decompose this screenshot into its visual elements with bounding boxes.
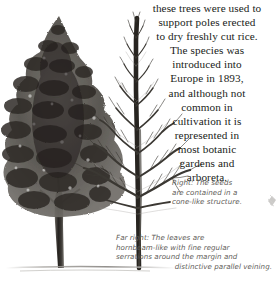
illustrated-page: these trees were used to support poles e… <box>0 0 279 289</box>
body-text-block: these trees were used to support poles e… <box>146 1 268 184</box>
foliated-tree-illustration <box>1 16 126 268</box>
body-line: cultivation it is <box>146 114 268 128</box>
body-line: common in <box>146 100 268 114</box>
body-line: The species was <box>146 43 268 57</box>
body-line: introduced into <box>146 57 268 71</box>
body-line: to dry freshly cut rice. <box>146 29 268 43</box>
body-line: these trees were used to <box>146 1 268 15</box>
caption-line: are contained in a <box>172 188 268 198</box>
body-line: most botanic <box>146 142 268 156</box>
body-line: gardens and <box>146 156 268 170</box>
body-line: Europe in 1893, <box>146 71 268 85</box>
body-line: represented in <box>146 128 268 142</box>
caption-line: Right: The seeds <box>172 178 268 188</box>
cone-illustration <box>268 195 276 206</box>
caption-leaves: Far right: The leaves are hornbeam-like … <box>116 233 272 271</box>
body-line: support poles erected <box>146 15 268 29</box>
caption-seeds: Right: The seeds are contained in a cone… <box>172 178 268 207</box>
caption-line: cone-like structure. <box>172 197 268 207</box>
caption-line: serrations around the margin and <box>116 252 272 262</box>
caption-line: Far right: The leaves are <box>116 233 272 243</box>
body-line: and although not <box>146 86 268 100</box>
caption-line: hornbeam-like with fine regular <box>116 243 272 253</box>
caption-line: distinctive parallel veining. <box>116 262 272 272</box>
